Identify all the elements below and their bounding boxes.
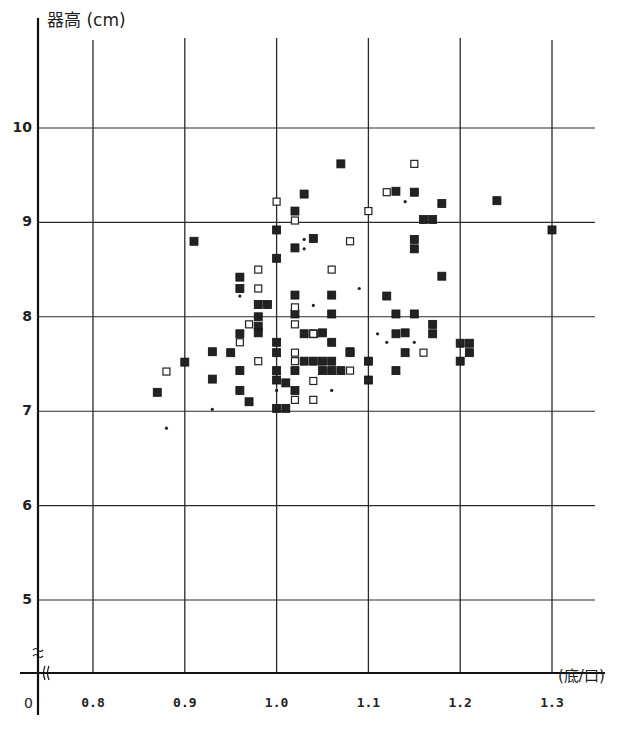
filled-square-marker <box>438 200 446 208</box>
filled-square-marker <box>328 367 336 375</box>
filled-square-marker <box>319 357 327 365</box>
filled-square-marker <box>153 388 161 396</box>
x-tick-label: 1.3 <box>540 695 563 710</box>
open-square-marker <box>420 349 427 356</box>
filled-square-marker <box>282 379 290 387</box>
open-square-marker <box>255 266 262 273</box>
filled-square-marker <box>364 376 372 384</box>
filled-square-marker <box>208 375 216 383</box>
filled-square-marker <box>273 226 281 234</box>
open-square-marker <box>291 321 298 328</box>
filled-square-marker <box>364 357 372 365</box>
open-square-marker <box>365 208 372 215</box>
filled-square-marker <box>337 160 345 168</box>
filled-square-marker <box>465 349 473 357</box>
filled-square-marker <box>392 330 400 338</box>
filled-square-marker <box>309 234 317 242</box>
dot-marker <box>211 408 214 411</box>
filled-square-marker <box>263 301 271 309</box>
dot-marker <box>238 294 241 297</box>
filled-square-marker <box>465 339 473 347</box>
open-square-marker <box>347 367 354 374</box>
filled-square-marker <box>328 357 336 365</box>
filled-square-marker <box>328 310 336 318</box>
filled-square-marker <box>245 398 253 406</box>
dot-marker <box>303 238 306 241</box>
filled-square-marker <box>346 349 354 357</box>
filled-square-marker <box>254 301 262 309</box>
filled-square-marker <box>493 197 501 205</box>
open-square-marker <box>347 238 354 245</box>
filled-square-marker <box>291 244 299 252</box>
open-square-marker <box>291 396 298 403</box>
dot-marker <box>358 287 361 290</box>
filled-square-marker <box>319 329 327 337</box>
filled-square-marker <box>401 329 409 337</box>
open-square-marker <box>163 368 170 375</box>
filled-square-marker <box>236 284 244 292</box>
filled-square-marker <box>282 404 290 412</box>
x-tick-label: 0.8 <box>81 695 104 710</box>
filled-square-marker <box>410 235 418 243</box>
plot-area <box>0 0 619 729</box>
filled-square-marker <box>410 188 418 196</box>
filled-square-marker <box>456 339 464 347</box>
filled-square-marker <box>273 338 281 346</box>
x-axis-label: (底/口) <box>558 664 605 685</box>
dot-marker <box>376 332 379 335</box>
dot-marker <box>275 389 278 392</box>
open-square-marker <box>236 339 243 346</box>
y-tick-label: 8 <box>2 308 32 324</box>
open-square-marker <box>273 198 280 205</box>
dot-marker <box>413 341 416 344</box>
filled-square-marker <box>328 338 336 346</box>
filled-square-marker <box>208 348 216 356</box>
filled-square-marker <box>181 358 189 366</box>
filled-square-marker <box>236 330 244 338</box>
filled-square-marker <box>319 367 327 375</box>
filled-square-marker <box>429 330 437 338</box>
open-square-marker <box>246 321 253 328</box>
x-tick-label: 1.2 <box>448 695 471 710</box>
filled-square-marker <box>392 367 400 375</box>
y-axis-label: 器高 (cm) <box>47 6 126 31</box>
filled-square-marker <box>254 313 262 321</box>
dot-marker <box>404 200 407 203</box>
open-square-marker <box>291 217 298 224</box>
filled-square-marker <box>236 273 244 281</box>
x-tick-label: 0.9 <box>173 695 196 710</box>
scatter-chart: 器高 (cm) (底/口) 0 5678910 0.80.91.01.11.21… <box>0 0 619 729</box>
y-tick-label: 7 <box>2 402 32 418</box>
filled-square-marker <box>236 367 244 375</box>
filled-square-marker <box>392 187 400 195</box>
filled-square-marker <box>419 216 427 224</box>
open-square-marker <box>310 377 317 384</box>
open-square-marker <box>255 285 262 292</box>
filled-square-marker <box>438 272 446 280</box>
filled-square-marker <box>273 404 281 412</box>
filled-square-marker <box>291 386 299 394</box>
open-square-marker <box>411 160 418 167</box>
filled-square-marker <box>300 190 308 198</box>
open-square-marker <box>383 189 390 196</box>
open-square-marker <box>291 349 298 356</box>
open-square-marker <box>310 330 317 337</box>
filled-square-marker <box>328 291 336 299</box>
filled-square-marker <box>227 349 235 357</box>
filled-square-marker <box>291 367 299 375</box>
filled-square-marker <box>429 216 437 224</box>
dot-marker <box>312 304 315 307</box>
x-tick-label: 1.0 <box>265 695 288 710</box>
filled-square-marker <box>548 226 556 234</box>
filled-square-marker <box>309 357 317 365</box>
y-tick-label: 5 <box>2 591 32 607</box>
y-tick-label: 9 <box>2 213 32 229</box>
open-square-marker <box>255 358 262 365</box>
filled-square-marker <box>273 367 281 375</box>
filled-square-marker <box>236 386 244 394</box>
open-square-marker <box>291 358 298 365</box>
open-square-marker <box>310 396 317 403</box>
filled-square-marker <box>190 237 198 245</box>
filled-square-marker <box>383 292 391 300</box>
filled-square-marker <box>337 367 345 375</box>
